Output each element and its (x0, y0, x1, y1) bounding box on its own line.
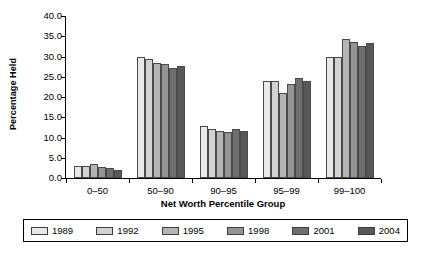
legend-item-1995[interactable]: 1995 (162, 225, 204, 236)
bar-group-bars (192, 16, 255, 178)
legend-swatch-icon (162, 227, 179, 235)
y-axis-tick-label: 30.0 (44, 52, 63, 62)
legend-swatch-icon (358, 227, 375, 235)
bar-99-100-2004 (366, 43, 374, 178)
y-axis-tick-mark (61, 158, 65, 159)
x-axis-title: Net Worth Percentile Group (65, 198, 381, 209)
bar-chart-figure: Percentage Held 0.05.010.015.020.025.030… (0, 0, 431, 253)
y-axis-tick-label: 40.0 (44, 11, 63, 21)
legend-item-label: 2001 (313, 225, 334, 236)
y-axis-tick-mark (61, 16, 65, 17)
y-axis-tick-mark (61, 77, 65, 78)
bar-0-50-1998 (98, 167, 106, 178)
bar-95-99-1992 (271, 81, 279, 178)
legend-swatch-icon (227, 227, 244, 235)
bar-95-99-1998 (287, 84, 295, 178)
bar-95-99-2001 (295, 78, 303, 178)
bar-50-90-1992 (145, 59, 153, 178)
x-axis-tick-mark (66, 179, 67, 183)
x-axis-category-label: 99–100 (334, 185, 366, 196)
y-axis-tick-mark (61, 36, 65, 37)
bar-group-bars (318, 16, 381, 178)
legend-item-1998[interactable]: 1998 (227, 225, 269, 236)
bar-group-bars (66, 16, 129, 178)
legend-swatch-icon (292, 227, 309, 235)
legend-item-1989[interactable]: 1989 (31, 225, 73, 236)
x-axis-tick-mark (129, 179, 130, 183)
legend-item-label: 2004 (379, 225, 400, 236)
bar-95-99-1995 (279, 93, 287, 178)
legend-item-label: 1989 (52, 225, 73, 236)
chart-legend: 198919921995199820012004 (23, 219, 408, 242)
x-axis-line (65, 178, 381, 179)
bar-0-50-2004 (114, 170, 122, 179)
x-axis-tick-mark (255, 179, 256, 183)
legend-item-label: 1995 (183, 225, 204, 236)
x-axis-tick-mark (318, 179, 319, 183)
bar-50-90-2001 (169, 68, 177, 178)
bar-99-100-1989 (326, 57, 334, 178)
x-axis-category-label: 90–95 (210, 185, 236, 196)
bar-0-50-1989 (74, 166, 82, 178)
bar-group (129, 16, 192, 178)
bar-99-100-1992 (334, 57, 342, 179)
y-axis-tick-labels: 0.05.010.015.020.025.030.035.040.0 (18, 16, 62, 178)
bar-50-90-2004 (177, 66, 185, 178)
plot-region: Percentage Held 0.05.010.015.020.025.030… (0, 6, 431, 206)
x-axis-tick-mark (192, 179, 193, 183)
bar-90-95-1992 (208, 129, 216, 178)
bars-area (66, 16, 381, 178)
bar-99-100-1998 (350, 42, 358, 178)
x-axis-tick-mark (381, 179, 382, 183)
bar-0-50-1995 (90, 164, 98, 178)
legend-item-1992[interactable]: 1992 (96, 225, 138, 236)
legend-item-label: 1992 (117, 225, 138, 236)
bar-99-100-1995 (342, 39, 350, 178)
bar-group-bars (129, 16, 192, 178)
bar-95-99-2004 (303, 81, 311, 178)
bar-group (66, 16, 129, 178)
y-axis-tick-label: 35.0 (44, 31, 63, 41)
bar-group (255, 16, 318, 178)
legend-item-2004[interactable]: 2004 (358, 225, 400, 236)
bar-0-50-1992 (82, 166, 90, 178)
legend-item-2001[interactable]: 2001 (292, 225, 334, 236)
y-axis-tick-mark (61, 138, 65, 139)
legend-item-label: 1998 (248, 225, 269, 236)
bar-50-90-1989 (137, 57, 145, 178)
y-axis-tick-mark (61, 178, 65, 179)
bar-90-95-1989 (200, 126, 208, 178)
bar-95-99-1989 (263, 81, 271, 178)
bar-0-50-2001 (106, 168, 114, 178)
bar-group-bars (255, 16, 318, 178)
y-axis-tick-label: 10.0 (44, 133, 63, 143)
bar-90-95-1998 (224, 132, 232, 178)
bar-50-90-1995 (153, 63, 161, 178)
bar-50-90-1998 (161, 64, 169, 178)
bar-90-95-2001 (232, 129, 240, 178)
x-axis-category-label: 50–90 (147, 185, 173, 196)
legend-swatch-icon (31, 227, 48, 235)
bar-group (192, 16, 255, 178)
bar-99-100-2001 (358, 46, 366, 178)
y-axis-tick-label: 25.0 (44, 72, 63, 82)
y-axis-tick-label: 20.0 (44, 92, 63, 102)
bar-90-95-1995 (216, 131, 224, 178)
y-axis-tick-mark (61, 57, 65, 58)
bar-group (318, 16, 381, 178)
y-axis-tick-mark (61, 117, 65, 118)
y-axis-tick-mark (61, 97, 65, 98)
legend-swatch-icon (96, 227, 113, 235)
x-axis-category-label: 0–50 (87, 185, 108, 196)
y-axis-tick-label: 15.0 (44, 112, 63, 122)
bar-90-95-2004 (240, 131, 248, 178)
x-axis-category-label: 95–99 (273, 185, 299, 196)
